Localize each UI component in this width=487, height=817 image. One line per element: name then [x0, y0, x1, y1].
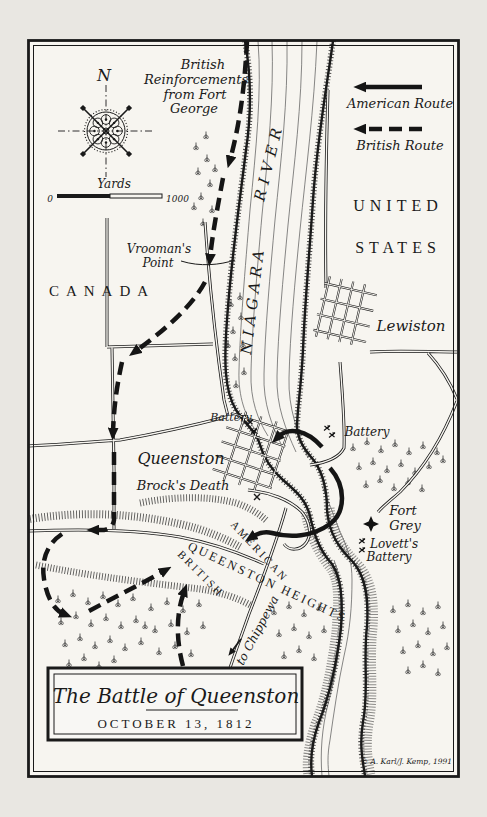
fort-grey-label-line2: Grey — [389, 518, 421, 533]
scale-end-label: 1000 — [166, 194, 189, 204]
map-page: American Route British Route N Yards 0 1… — [0, 0, 487, 817]
compass-north-label: N — [96, 66, 112, 85]
map-title: The Battle of Queenston — [53, 684, 300, 708]
reinforcements-label-line4: George — [170, 101, 218, 116]
queenston-label: Queenston — [137, 449, 224, 468]
title-cartouche: The Battle of Queenston OCTOBER 13, 1812 — [48, 668, 302, 740]
battery-lewiston-label: Battery — [343, 425, 389, 439]
reinforcements-label-line3: from Fort — [163, 87, 228, 102]
legend-british-label: British Route — [355, 138, 444, 153]
lovetts-battery-label-line1: Lovett's — [369, 537, 418, 551]
vroomans-point-label-line2: Point — [141, 256, 173, 270]
united-states-label-line2: STATES — [355, 239, 441, 256]
canada-label: CANADA — [49, 283, 155, 299]
fort-grey-label-line1: Fort — [388, 503, 417, 518]
united-states-label-line1: UNITED — [353, 197, 443, 214]
battery-queenston-label: Battery — [209, 411, 252, 424]
reinforcements-label-line1: British — [180, 57, 225, 72]
brocks-death-label: Brock's Death — [136, 478, 230, 493]
lovetts-battery-label-line2: Battery — [365, 550, 411, 564]
map-subtitle-date: OCTOBER 13, 1812 — [97, 716, 254, 731]
scale-units-label: Yards — [97, 177, 131, 191]
legend-american-label: American Route — [346, 96, 454, 111]
battle-map: American Route British Route N Yards 0 1… — [0, 0, 487, 817]
lewiston-label: Lewiston — [376, 317, 446, 335]
scale-start-label: 0 — [47, 194, 53, 204]
vroomans-point-label-line1: Vrooman's — [127, 242, 192, 256]
cartographer-credit: © A. Karl/J. Kemp, 1991 — [361, 757, 452, 766]
reinforcements-label-line2: Reinforcements — [143, 72, 248, 87]
